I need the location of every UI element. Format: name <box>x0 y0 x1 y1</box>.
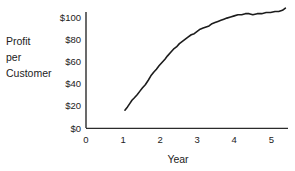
y-tick-label-60: $60 <box>65 56 81 67</box>
profit-per-customer-chart: Profit per Customer $0$20$40$60$80$100 0… <box>0 0 295 171</box>
y-tick-label-100: $100 <box>60 12 81 23</box>
y-axis-title-line-1: Profit <box>6 35 31 47</box>
x-axis-tick-labels: 012345 <box>83 134 274 145</box>
y-tick-label-80: $80 <box>65 34 81 45</box>
y-tick-label-0: $0 <box>70 123 81 134</box>
x-tick-label-0: 0 <box>83 134 88 145</box>
x-tick-label-3: 3 <box>195 134 200 145</box>
y-tick-label-20: $20 <box>65 100 81 111</box>
y-axis-title-line-2: per <box>6 51 22 63</box>
y-axis-tick-labels: $0$20$40$60$80$100 <box>60 12 81 134</box>
chart-canvas: Profit per Customer $0$20$40$60$80$100 0… <box>0 0 295 171</box>
y-tick-label-40: $40 <box>65 78 81 89</box>
x-axis-title: Year <box>167 153 189 165</box>
y-axis-title-line-3: Customer <box>6 67 52 79</box>
y-axis-title-group: Profit per Customer <box>6 35 52 79</box>
x-tick-label-5: 5 <box>269 134 274 145</box>
data-line-profit-per-customer <box>125 8 285 110</box>
x-tick-label-1: 1 <box>120 134 125 145</box>
x-tick-label-2: 2 <box>157 134 162 145</box>
x-tick-label-4: 4 <box>232 134 237 145</box>
